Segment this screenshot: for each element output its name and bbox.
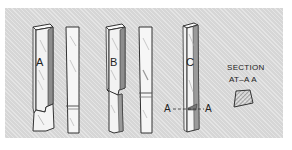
tool-blank-1 (66, 27, 79, 133)
tool-blank-2 (139, 27, 152, 133)
tool-label-b: B (110, 56, 117, 68)
section-line-label-right: A (205, 103, 212, 114)
section-detail: SECTION AT–A A (227, 63, 265, 107)
section-caption-line1: SECTION (227, 63, 265, 72)
section-line-label-left: A (164, 103, 171, 114)
tool-bit-c: C (183, 23, 199, 132)
section-caption-line2: AT–A A (229, 75, 257, 84)
tool-bit-b: B (106, 24, 125, 133)
tool-label-c: C (186, 56, 194, 68)
tool-bit-a: A (33, 24, 54, 131)
tool-label-a: A (36, 56, 44, 68)
tool-bits-illustration: A B C (0, 0, 292, 150)
